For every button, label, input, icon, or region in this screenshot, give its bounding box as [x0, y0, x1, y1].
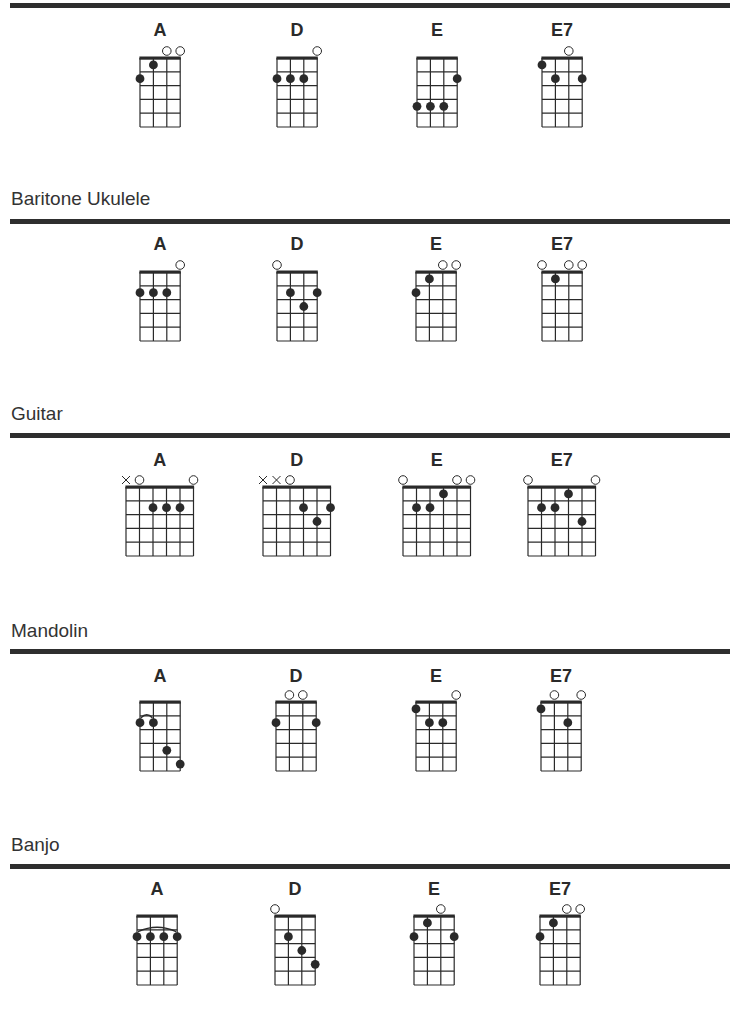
finger-dot-icon: [299, 302, 308, 311]
finger-dot-icon: [299, 74, 308, 83]
finger-dot-icon: [438, 718, 447, 727]
open-string-icon: [466, 476, 475, 485]
finger-dot-icon: [537, 705, 546, 714]
open-string-icon: [286, 476, 295, 485]
chord-diagram-mandolin-a: [128, 690, 192, 783]
finger-dot-icon: [162, 746, 171, 755]
chord-label: D: [291, 20, 304, 41]
open-string-icon: [299, 691, 308, 700]
finger-dot-icon: [425, 718, 434, 727]
section-title-banjo: Banjo: [11, 834, 60, 856]
section-title-mandolin: Mandolin: [11, 620, 88, 642]
chord-diagram-banjo-d: [263, 904, 327, 997]
chord-diagram-banjo-e: [402, 904, 466, 997]
finger-dot-icon: [578, 517, 587, 526]
open-string-icon: [591, 476, 600, 485]
open-string-icon: [538, 261, 547, 270]
finger-dot-icon: [412, 503, 421, 512]
open-string-icon: [578, 261, 587, 270]
finger-dot-icon: [311, 960, 320, 969]
finger-dot-icon: [149, 61, 158, 70]
chord-label: A: [154, 234, 167, 255]
finger-dot-icon: [423, 919, 432, 928]
finger-dot-icon: [149, 503, 158, 512]
muted-string-icon: [122, 476, 130, 484]
section-divider: [10, 864, 730, 869]
chord-diagram-banjo-e7: [528, 904, 592, 997]
chord-diagram-mandolin-d: [264, 690, 328, 783]
chord-label: E7: [551, 20, 573, 41]
open-string-icon: [565, 47, 574, 56]
finger-dot-icon: [312, 718, 321, 727]
section-divider: [10, 219, 730, 224]
chord-label: D: [289, 879, 302, 900]
open-string-icon: [271, 905, 280, 914]
finger-dot-icon: [412, 288, 421, 297]
section-divider: [10, 649, 730, 654]
finger-dot-icon: [162, 503, 171, 512]
finger-dot-icon: [159, 932, 168, 941]
finger-dot-icon: [284, 932, 293, 941]
chord-diagram-baritone-ukulele-d: [265, 260, 329, 353]
finger-dot-icon: [549, 919, 558, 928]
open-string-icon: [285, 691, 294, 700]
finger-dot-icon: [450, 932, 459, 941]
chord-label: E7: [549, 879, 571, 900]
finger-dot-icon: [313, 288, 322, 297]
chord-diagram-mandolin-e: [404, 690, 468, 783]
finger-dot-icon: [297, 946, 306, 955]
chord-label: D: [291, 234, 304, 255]
open-string-icon: [453, 476, 462, 485]
open-string-icon: [313, 47, 322, 56]
finger-dot-icon: [176, 760, 185, 769]
finger-dot-icon: [551, 74, 560, 83]
open-string-icon: [452, 261, 461, 270]
chord-diagram-guitar-e7: [516, 475, 608, 568]
open-string-icon: [163, 47, 172, 56]
open-string-icon: [437, 905, 446, 914]
chord-label: E: [431, 450, 443, 471]
open-string-icon: [576, 905, 585, 914]
open-string-icon: [176, 261, 185, 270]
chord-label: E7: [550, 666, 572, 687]
chord-diagram-baritone-ukulele-e: [404, 260, 468, 353]
section-divider: [10, 3, 730, 8]
open-string-icon: [550, 691, 559, 700]
chord-label: A: [154, 666, 167, 687]
finger-dot-icon: [286, 288, 295, 297]
open-string-icon: [452, 691, 461, 700]
finger-dot-icon: [326, 503, 335, 512]
chord-label: E: [428, 879, 440, 900]
finger-dot-icon: [162, 288, 171, 297]
section-title-guitar: Guitar: [11, 403, 63, 425]
open-string-icon: [189, 476, 198, 485]
open-string-icon: [176, 47, 185, 56]
open-string-icon: [439, 261, 448, 270]
finger-dot-icon: [426, 503, 435, 512]
chord-diagram-baritone-ukulele-a: [128, 260, 192, 353]
chord-label: E: [430, 234, 442, 255]
chord-diagram-baritone-ukulele-e7: [530, 260, 594, 353]
open-string-icon: [577, 691, 586, 700]
open-string-icon: [399, 476, 408, 485]
finger-dot-icon: [146, 932, 155, 941]
muted-string-icon: [259, 476, 267, 484]
chord-label: E7: [551, 234, 573, 255]
finger-dot-icon: [412, 705, 421, 714]
chord-diagram-mandolin-e7: [529, 690, 593, 783]
finger-dot-icon: [410, 932, 419, 941]
open-string-icon: [273, 261, 282, 270]
finger-dot-icon: [563, 718, 572, 727]
finger-dot-icon: [426, 102, 435, 111]
finger-dot-icon: [286, 74, 295, 83]
chord-diagram-guitar-e: [391, 475, 483, 568]
chord-label: A: [153, 450, 166, 471]
finger-dot-icon: [538, 61, 547, 70]
finger-dot-icon: [551, 275, 560, 284]
finger-dot-icon: [439, 102, 448, 111]
finger-dot-icon: [536, 932, 545, 941]
finger-dot-icon: [425, 275, 434, 284]
chord-label: E7: [551, 450, 573, 471]
finger-dot-icon: [299, 503, 308, 512]
chord-label: A: [151, 879, 164, 900]
